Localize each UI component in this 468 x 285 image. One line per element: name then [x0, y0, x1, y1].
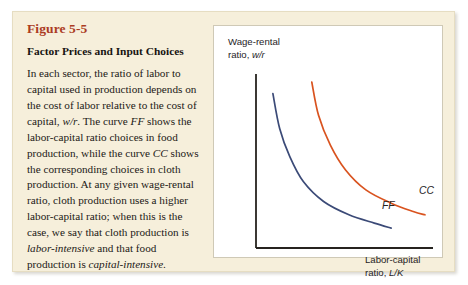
- caption-run-2: . The curve: [77, 115, 130, 127]
- chart-svg: CC FF Wage-rental ratio, w/r Labor-capit…: [213, 25, 457, 270]
- y-axis-label-line1: Wage-rental: [228, 36, 280, 47]
- caption-run-9: capital-intensive: [89, 258, 164, 270]
- x-axis-label-prefix: ratio,: [365, 267, 389, 278]
- caption-run-7: labor-intensive: [27, 242, 95, 254]
- caption-run-10: .: [163, 258, 166, 270]
- caption-run-5: CC: [153, 147, 168, 159]
- caption-run-6: shows the corresponding choices in cloth…: [27, 147, 199, 239]
- x-axis-label-line1: Labor-capital: [365, 254, 420, 265]
- cc-curve: [312, 82, 425, 215]
- ff-curve-label: FF: [382, 200, 395, 211]
- caption-run-1: w/r: [62, 115, 77, 127]
- figure-number-heading: Figure 5-5: [27, 22, 207, 37]
- figure-panel: Figure 5-5 Factor Prices and Input Choic…: [12, 11, 455, 272]
- figure-container: Figure 5-5 Factor Prices and Input Choic…: [0, 0, 468, 285]
- figure-caption-column: Figure 5-5 Factor Prices and Input Choic…: [27, 22, 207, 273]
- y-axis-label-symbol: w/r: [252, 49, 266, 60]
- y-axis-label-line2: ratio, w/r: [228, 49, 266, 60]
- x-axis-label-symbol: L/K: [389, 267, 404, 278]
- x-axis-label-line2: ratio, L/K: [365, 267, 404, 278]
- y-axis-label-prefix: ratio,: [228, 49, 252, 60]
- ff-curve: [273, 94, 391, 228]
- caption-run-3: FF: [131, 115, 145, 127]
- figure-subtitle: Factor Prices and Input Choices: [27, 44, 207, 58]
- cc-curve-label: CC: [419, 185, 435, 196]
- figure-body-text: In each sector, the ratio of labor to ca…: [27, 66, 207, 273]
